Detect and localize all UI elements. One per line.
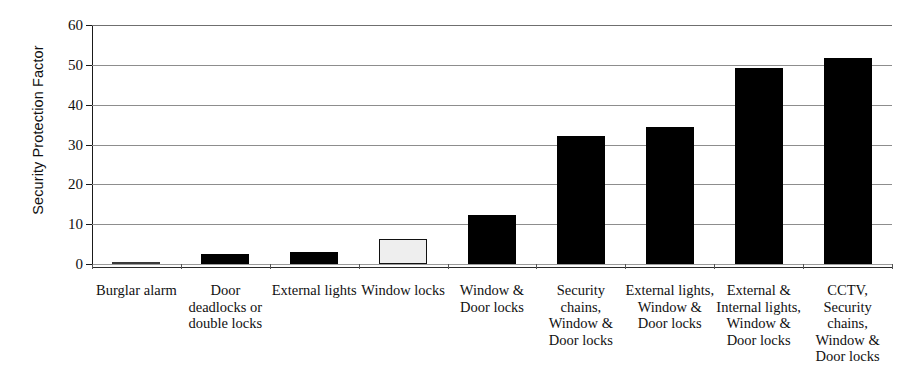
x-axis-tick — [536, 264, 537, 269]
x-axis-label-line: Window locks — [353, 282, 454, 299]
x-axis-tick — [448, 264, 449, 269]
y-axis-tick — [86, 224, 92, 225]
y-axis-tick-label: 20 — [68, 176, 83, 193]
x-axis-label: External &Internal lights,Window &Door l… — [708, 282, 809, 348]
x-axis-label: Doordeadlocks ordouble locks — [175, 282, 276, 332]
x-axis-label-line: Window & — [442, 282, 543, 299]
y-axis-tick — [86, 145, 92, 146]
x-axis-tick — [892, 264, 893, 269]
x-axis-label-line: External lights, — [619, 282, 720, 299]
x-axis-label: Window &Door locks — [442, 282, 543, 315]
y-axis-tick-label: 40 — [68, 96, 83, 113]
x-axis-label: Window locks — [353, 282, 454, 299]
x-axis-label-line: Door locks — [619, 315, 720, 332]
x-axis-label-line: External lights — [264, 282, 365, 299]
x-axis-label-line: Burglar alarm — [86, 282, 187, 299]
x-axis-label: External lights — [264, 282, 365, 299]
x-axis-label-line: External & — [708, 282, 809, 299]
gridline — [92, 65, 892, 66]
x-axis-tick — [181, 264, 182, 269]
x-axis-tick — [803, 264, 804, 269]
bar — [735, 68, 783, 264]
x-axis-label: Securitychains,Window &Door locks — [530, 282, 631, 348]
y-axis-tick — [86, 184, 92, 185]
plot-area: 0102030405060 — [92, 25, 892, 264]
x-axis-tick — [270, 264, 271, 269]
x-axis-label-line: Door — [175, 282, 276, 299]
x-axis-base-band — [92, 264, 892, 268]
x-axis-tick — [92, 264, 93, 269]
y-axis-tick-label: 50 — [68, 56, 83, 73]
x-axis-label-line: Security — [530, 282, 631, 299]
x-axis-tick — [359, 264, 360, 269]
x-axis-label-line: CCTV, — [797, 282, 898, 299]
x-axis-tick — [714, 264, 715, 269]
bar — [468, 215, 516, 264]
bar-chart: Security Protection Factor 0102030405060… — [0, 0, 920, 376]
x-axis-label-line: Internal lights, — [708, 299, 809, 316]
bar — [290, 252, 338, 264]
x-axis-tick — [625, 264, 626, 269]
bar — [379, 239, 427, 264]
bar — [112, 262, 160, 265]
y-axis-tick — [86, 65, 92, 66]
x-axis-label: External lights,Window &Door locks — [619, 282, 720, 332]
x-axis-label-line: Window & — [708, 315, 809, 332]
x-axis-label: Burglar alarm — [86, 282, 187, 299]
x-axis-label-line: Door locks — [708, 332, 809, 349]
gridline — [92, 25, 892, 26]
x-axis-label-line: Security — [797, 299, 898, 316]
bar — [557, 136, 605, 264]
x-axis-label-line: Window & — [797, 332, 898, 349]
y-axis-tick — [86, 25, 92, 26]
y-axis-tick-label: 0 — [76, 256, 84, 273]
x-axis-label-line: deadlocks or — [175, 299, 276, 316]
x-axis-label-line: Door locks — [530, 332, 631, 349]
x-axis-label-line: chains, — [797, 315, 898, 332]
y-axis-tick-label: 10 — [68, 216, 83, 233]
y-axis-tick-label: 60 — [68, 17, 83, 34]
bar — [201, 254, 249, 264]
x-axis-label-line: chains, — [530, 299, 631, 316]
x-axis-label-line: Door locks — [797, 348, 898, 365]
x-axis-label-line: Door locks — [442, 299, 543, 316]
x-axis-label-line: double locks — [175, 315, 276, 332]
x-axis-label-line: Window & — [530, 315, 631, 332]
y-axis-tick — [86, 105, 92, 106]
bar — [646, 127, 694, 264]
y-axis-tick-label: 30 — [68, 136, 83, 153]
x-axis-label: CCTV,Securitychains,Window &Door locks — [797, 282, 898, 365]
y-axis-title: Security Protection Factor — [30, 0, 46, 260]
x-axis-label-line: Window & — [619, 299, 720, 316]
bar — [824, 58, 872, 264]
